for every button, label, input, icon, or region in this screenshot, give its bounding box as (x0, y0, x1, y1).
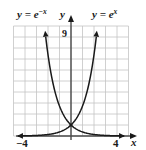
curve-arrow-icon (119, 133, 125, 139)
label-e-x: y = ex (90, 7, 118, 20)
label-e-neg-x: y = e−x (15, 7, 47, 20)
y-tick-label-9: 9 (62, 28, 67, 39)
x-axis-label: x (130, 136, 137, 148)
curve-e-x (18, 37, 96, 136)
intersection-point (69, 123, 72, 126)
x-tick-label-neg4: −4 (16, 137, 28, 149)
x-tick-label-4: 4 (113, 137, 119, 149)
y-axis-arrow-up-icon (68, 15, 74, 22)
y-axis-label: y (58, 8, 65, 20)
y-axis (68, 15, 74, 140)
exponential-graph: y = e−x y y = ex 9 −4 4 x (0, 0, 146, 150)
curve-e-neg-x (46, 37, 124, 136)
